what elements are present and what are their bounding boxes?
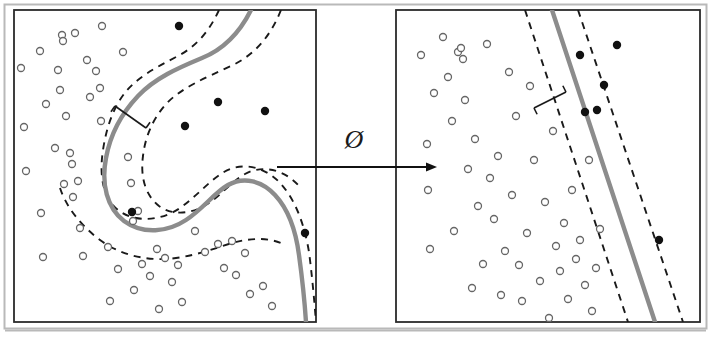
negative-point [460,56,467,63]
negative-point [582,282,589,289]
positive-point [181,122,189,130]
negative-point [462,97,469,104]
negative-point [179,299,186,306]
negative-point [202,249,209,256]
negative-point [77,225,84,232]
negative-point [531,157,538,164]
negative-point [458,45,465,52]
negative-point [495,153,502,160]
negative-point [516,262,523,269]
negative-point [513,113,520,120]
negative-point [97,85,104,92]
negative-point [487,175,494,182]
negative-point [484,41,491,48]
negative-point [156,306,163,313]
negative-point [431,90,438,97]
negative-point [589,308,596,315]
negative-point [425,187,432,194]
negative-point [192,228,199,235]
negative-point [162,255,169,262]
negative-point [569,187,576,194]
negative-point [577,237,584,244]
negative-point [43,101,50,108]
negative-point [38,210,45,217]
negative-point [57,87,64,94]
negative-point [233,272,240,279]
negative-point [586,157,593,164]
negative-point [480,261,487,268]
positive-point [128,208,136,216]
negative-point [542,199,549,206]
positive-point [214,98,222,106]
negative-point [131,287,138,294]
negative-point [537,278,544,285]
negative-point [98,118,105,125]
positive-point [175,22,183,30]
negative-point [565,296,572,303]
negative-point [80,253,87,260]
negative-point [519,298,526,305]
negative-point [52,145,59,152]
negative-point [247,291,254,298]
positive-point [581,108,589,116]
negative-point [440,34,447,41]
right-panel-feature-space [396,10,700,322]
negative-point [128,180,135,187]
negative-point [130,218,137,225]
negative-point [60,38,67,45]
negative-point [491,216,498,223]
negative-point [449,118,456,125]
positive-point [655,236,663,244]
negative-point [445,74,452,81]
negative-point [269,303,276,310]
negative-point [242,250,249,257]
negative-point [63,113,70,120]
positive-point [301,229,309,237]
negative-point [527,83,534,90]
phi-feature-map-symbol: Ø [344,125,365,154]
negative-point [87,94,94,101]
negative-point [37,48,44,55]
negative-point [61,181,68,188]
negative-point [70,194,77,201]
positive-point [593,106,601,114]
negative-point [524,230,531,237]
negative-point [105,244,112,251]
left-panel-input-space-border [14,10,316,322]
negative-point [125,154,132,161]
negative-point [260,283,267,290]
negative-point [593,265,600,272]
negative-point [509,192,516,199]
negative-point [147,273,154,280]
negative-point [75,178,82,185]
negative-point [502,248,509,255]
negative-point [21,124,28,131]
negative-point [99,23,106,30]
positive-point [576,51,584,59]
negative-point [107,298,114,305]
negative-point [72,30,79,37]
negative-point [69,161,76,168]
right-panel-feature-space-border [396,10,700,322]
negative-point [561,220,568,227]
left-panel-input-space [14,10,316,322]
negative-point [93,68,100,75]
negative-point [115,266,122,273]
negative-point [175,262,182,269]
negative-point [154,246,161,253]
negative-point [498,292,505,299]
negative-point [469,285,476,292]
negative-point [465,166,472,173]
negative-point [23,168,30,175]
negative-point [120,49,127,56]
negative-point [506,69,513,76]
negative-point [557,268,564,275]
negative-point [451,228,458,235]
negative-point [424,141,431,148]
negative-point [472,136,479,143]
negative-point [418,52,425,59]
negative-point [573,256,580,263]
negative-point [229,238,236,245]
negative-point [427,246,434,253]
negative-point [169,279,176,286]
